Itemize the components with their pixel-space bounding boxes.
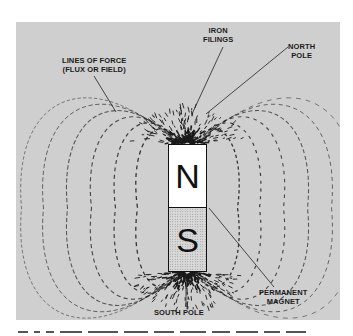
iron-filing [219, 276, 222, 277]
bar-magnet: N S [168, 144, 207, 272]
iron-filing [169, 126, 171, 129]
iron-filing [202, 301, 203, 304]
north-letter: N [175, 159, 200, 193]
south-pole-half: S [169, 208, 206, 271]
iron-filing [214, 280, 219, 282]
iron-filing [215, 135, 218, 136]
iron-filing [174, 125, 175, 127]
iron-filing [219, 117, 221, 118]
iron-filing [176, 110, 177, 112]
iron-filing [160, 140, 165, 141]
iron-filing [173, 274, 178, 276]
iron-filing [209, 137, 211, 138]
iron-filing [213, 301, 215, 303]
iron-filing [212, 303, 214, 308]
iron-filing [223, 285, 225, 287]
iron-filing [163, 135, 165, 136]
iron-filing [182, 283, 184, 286]
iron-filing [232, 292, 234, 293]
iron-filing [231, 124, 234, 126]
label-lines-of-force: LINES OF FORCE (FLUX OR FIELD) [62, 56, 126, 74]
iron-filing [188, 133, 189, 138]
iron-filing [211, 116, 214, 121]
field-line [21, 98, 182, 318]
iron-filing [185, 118, 186, 121]
iron-filing [210, 305, 211, 307]
iron-filing [229, 282, 233, 283]
iron-filing [197, 284, 198, 288]
iron-filing [223, 138, 225, 139]
iron-filing [155, 287, 157, 288]
iron-filing [185, 130, 186, 133]
iron-filing [211, 136, 213, 137]
field-line [194, 98, 341, 318]
iron-filing [191, 296, 192, 301]
iron-filing [234, 130, 237, 131]
iron-filing [188, 297, 189, 299]
iron-filing [176, 299, 177, 304]
south-letter: S [176, 223, 199, 257]
iron-filing [185, 113, 186, 117]
iron-filing [176, 130, 177, 132]
label-permanent-magnet: PERMANENT MAGNET [259, 288, 307, 306]
diagram-panel: IRON FILINGS NORTH POLE LINES OF FORCE (… [16, 22, 340, 320]
iron-filing [219, 286, 221, 287]
iron-filing [143, 288, 145, 289]
iron-filing [153, 295, 157, 298]
label-line: PERMANENT [259, 288, 307, 297]
iron-filing [216, 275, 220, 276]
leader-line [94, 76, 116, 112]
iron-filing [154, 113, 156, 114]
iron-filing [179, 113, 180, 117]
iron-filing [201, 276, 203, 277]
iron-filing [187, 130, 188, 134]
iron-filing [202, 288, 204, 291]
iron-filing [165, 113, 168, 117]
iron-filing [164, 289, 166, 290]
iron-filing [197, 128, 200, 133]
iron-filing [152, 278, 154, 279]
iron-filing [170, 109, 171, 114]
iron-filing [207, 306, 209, 311]
iron-filing [173, 111, 174, 116]
iron-filing [233, 138, 236, 139]
iron-filing [158, 284, 160, 286]
iron-filing [152, 299, 156, 302]
label-line: NORTH [288, 42, 315, 51]
iron-filing [178, 294, 179, 297]
iron-filing [164, 118, 166, 121]
iron-filing [174, 291, 177, 295]
iron-filing [205, 126, 207, 127]
iron-filing [197, 291, 198, 293]
iron-filing [178, 285, 179, 290]
iron-filing [227, 127, 232, 129]
label-line: LINES OF FORCE [62, 56, 126, 65]
iron-filing [232, 121, 236, 124]
iron-filing [139, 122, 142, 124]
iron-filing [202, 304, 203, 306]
field-line [194, 117, 285, 299]
iron-filing [172, 297, 173, 299]
label-line: MAGNET [259, 297, 307, 306]
iron-filing [158, 142, 163, 143]
iron-filing [155, 293, 157, 294]
iron-filing [229, 278, 231, 279]
iron-filing [172, 121, 173, 125]
field-line [194, 111, 309, 306]
iron-filing [204, 287, 207, 290]
iron-filing [213, 137, 218, 138]
iron-filing [199, 124, 201, 126]
iron-filing [212, 129, 214, 130]
iron-filing [208, 120, 210, 123]
iron-filing [143, 276, 146, 277]
iron-filing [200, 284, 204, 287]
label-south-pole: SOUTH POLE [154, 308, 204, 317]
iron-filing [224, 131, 227, 132]
iron-filing [209, 281, 213, 282]
iron-filing [150, 135, 155, 136]
iron-filing [178, 118, 180, 123]
iron-filing [212, 113, 214, 115]
iron-filing [188, 116, 189, 120]
clipped-caption [18, 331, 338, 336]
iron-filing [138, 275, 142, 276]
